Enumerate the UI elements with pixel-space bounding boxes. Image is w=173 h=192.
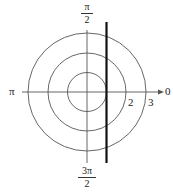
angle-label-half-pi: π 2: [81, 2, 93, 25]
angle-label-three-half-pi: 3π 2: [78, 166, 96, 189]
half-pi-denominator: 2: [85, 14, 90, 25]
radial-tick-label-3: 3: [148, 97, 154, 108]
arrow-right-icon: [158, 90, 164, 95]
three-half-pi-numerator: 3π: [82, 165, 92, 176]
angle-label-pi: π: [9, 86, 15, 97]
three-half-pi-denominator: 2: [85, 178, 90, 189]
radial-tick-label-2: 2: [128, 97, 134, 108]
half-pi-numerator: π: [84, 1, 89, 12]
angle-label-zero: 0: [165, 86, 171, 97]
